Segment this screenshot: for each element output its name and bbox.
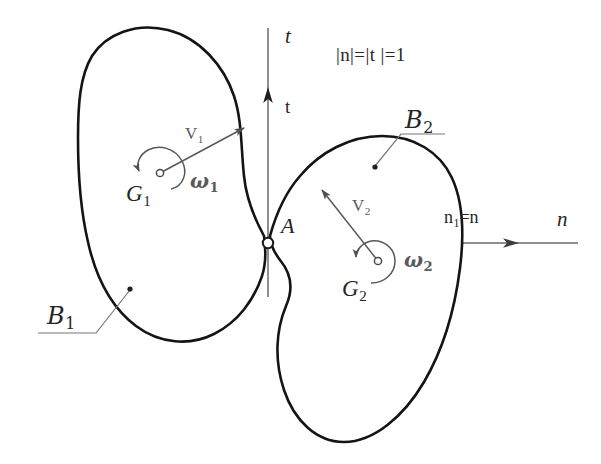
body-2-leader-dot	[372, 164, 377, 169]
contact-point-A	[263, 238, 273, 248]
contact-point-label: A	[281, 215, 294, 237]
unit-magnitude-note: |n|=|t |=1	[336, 45, 406, 64]
body-1-outline	[78, 28, 265, 342]
angular-velocity-1-subscript: 1	[209, 180, 219, 195]
velocity-2-base: V	[352, 196, 364, 215]
centroid-1-label: G1	[126, 182, 151, 208]
velocity-1-base: V	[185, 124, 197, 143]
velocity-1-label: V1	[185, 125, 203, 145]
normal-axis-label: n	[557, 209, 568, 230]
normal-axis-relation-base: n	[444, 207, 453, 227]
angular-velocity-2-label: ω2	[404, 250, 433, 273]
body-1-leader-dot	[127, 286, 132, 291]
velocity-1-subscript: 1	[197, 133, 203, 145]
contact-mechanics-diagram	[0, 0, 601, 464]
body-1-label: B1	[47, 304, 75, 332]
body-1-label-base: B	[47, 302, 65, 330]
centroid-2-label: G2	[342, 277, 367, 303]
velocity-2-subscript: 2	[364, 205, 370, 217]
body-2-label-subscript: 2	[423, 118, 434, 137]
angular-velocity-1-label: ω1	[190, 171, 219, 194]
angular-velocity-2-base: ω	[404, 248, 423, 272]
centroid-1-base: G	[126, 181, 143, 206]
body-1-label-subscript: 1	[65, 314, 76, 333]
tangent-axis-label: t	[285, 26, 291, 47]
tangent-vector-label: t	[285, 97, 290, 116]
normal-axis-relation-label: n1=n	[444, 208, 479, 230]
centroid-2-marker	[374, 257, 381, 264]
angular-velocity-2-subscript: 2	[423, 259, 433, 274]
centroid-1-subscript: 1	[143, 192, 151, 209]
angular-velocity-1-base: ω	[190, 169, 209, 193]
velocity-2-label: V2	[352, 197, 370, 217]
body-2-label-base: B	[405, 106, 423, 134]
body-2-label: B2	[405, 108, 433, 136]
centroid-1-marker	[156, 169, 163, 176]
normal-axis-relation-rest: =n	[459, 207, 478, 227]
centroid-2-base: G	[342, 276, 359, 301]
centroid-2-subscript: 2	[359, 287, 367, 304]
diagram-canvas: t t |n|=|t |=1 n1=n n A V1 ω1 G1 B1 V2 ω…	[0, 0, 601, 464]
